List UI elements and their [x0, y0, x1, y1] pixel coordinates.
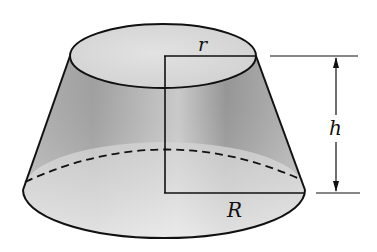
label-h: h [329, 116, 342, 140]
frustum-diagram: r h R [0, 0, 377, 252]
arrow-down-icon [333, 181, 339, 192]
arrow-up-icon [333, 57, 339, 68]
label-R: R [226, 198, 242, 222]
frustum-figure: r h R [0, 0, 377, 252]
